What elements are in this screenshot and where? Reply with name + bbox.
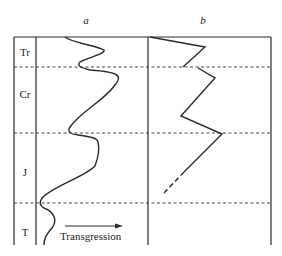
- transgression-arrow: [65, 224, 123, 229]
- transgression-label: Transgression: [60, 230, 122, 242]
- curve-b-solid-2: [181, 68, 222, 172]
- curve-b-dashed-extension: [162, 172, 184, 195]
- period-boundaries: [14, 67, 271, 203]
- curve-a: [40, 37, 119, 245]
- transgression-diagram: a b Tr Cr J T Transgression: [0, 0, 282, 256]
- period-label-cr: Cr: [20, 88, 31, 100]
- column-a-label: a: [83, 14, 89, 26]
- period-label-tr: Tr: [20, 46, 30, 58]
- curve-b-solid: [150, 37, 205, 67]
- period-label-j: J: [23, 166, 28, 178]
- period-label-t: T: [22, 226, 29, 238]
- column-b-label: b: [200, 14, 206, 26]
- arrow-head-icon: [115, 224, 123, 229]
